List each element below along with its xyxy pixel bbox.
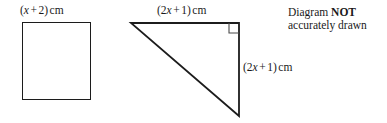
right-angle-marker-icon	[229, 23, 239, 33]
square-side-length-label: (x+2)cm	[20, 5, 64, 17]
diagram-canvas: (x+2)cm (2x+1)cm (2x+1)cm Diagram NOT ac…	[0, 0, 387, 123]
triangle-right-close-paren: )	[273, 61, 277, 73]
diagram-accuracy-note: Diagram NOT accurately drawn	[288, 6, 387, 32]
triangle-right-unit: cm	[278, 61, 292, 73]
triangle-outline	[131, 23, 239, 116]
triangle-right-variable: x	[253, 61, 258, 73]
triangle-right-operator: +	[259, 61, 266, 73]
triangle-top-variable: x	[167, 4, 172, 16]
triangle-top-unit: cm	[192, 4, 206, 16]
square-label-close-paren: )	[44, 4, 48, 16]
square-label-unit: cm	[50, 4, 64, 16]
triangle-right-side-label: (2x+1)cm	[243, 62, 292, 74]
note-line-1: Diagram NOT	[288, 6, 387, 19]
triangle-shape	[126, 16, 248, 123]
note-line-2: accurately drawn	[288, 19, 387, 32]
triangle-top-operator: +	[173, 4, 180, 16]
square-shape	[22, 22, 91, 100]
triangle-top-close-paren: )	[187, 4, 191, 16]
square-label-variable: x	[24, 4, 29, 16]
square-label-operator: +	[30, 4, 37, 16]
triangle-top-side-label: (2x+1)cm	[157, 5, 206, 17]
note-emphasis-not: NOT	[331, 6, 356, 18]
note-prefix: Diagram	[288, 6, 328, 18]
